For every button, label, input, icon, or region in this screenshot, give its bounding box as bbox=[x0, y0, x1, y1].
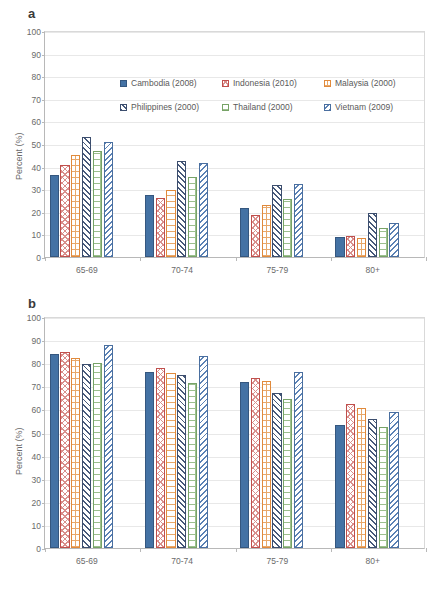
legend-swatch-diagonal-navy-icon bbox=[120, 104, 127, 111]
legend-swatch-brick-green-icon bbox=[222, 104, 229, 111]
bar-65-69-vietnam[interactable] bbox=[104, 142, 113, 257]
y-axis-tick-mark bbox=[42, 77, 45, 78]
y-axis-tick-label: 60 bbox=[32, 118, 41, 127]
legend-label: Thailand (2000) bbox=[233, 102, 293, 112]
legend-label: Indonesia (2010) bbox=[233, 78, 297, 88]
bar-80+-malaysia[interactable] bbox=[357, 408, 366, 548]
bar-80+-indonesia[interactable] bbox=[346, 236, 355, 257]
bar-80+-cambodia[interactable] bbox=[335, 425, 344, 548]
bar-70-74-philippines[interactable] bbox=[177, 161, 186, 257]
x-axis-label-70-74: 70-74 bbox=[171, 265, 193, 275]
bar-75-79-philippines[interactable] bbox=[272, 185, 281, 257]
y-axis-tick-label: 10 bbox=[32, 231, 41, 240]
y-axis-tick-mark bbox=[42, 122, 45, 123]
legend-label: Malaysia (2000) bbox=[335, 78, 395, 88]
plot-area-b: 010203040506070809010065-6970-7475-7980+ bbox=[44, 317, 425, 549]
bar-80+-malaysia[interactable] bbox=[357, 238, 366, 257]
x-axis-label-80+: 80+ bbox=[365, 556, 379, 566]
bar-70-74-malaysia[interactable] bbox=[166, 373, 175, 548]
bar-65-69-cambodia[interactable] bbox=[50, 354, 59, 549]
y-axis-tick-label: 70 bbox=[32, 96, 41, 105]
bar-70-74-cambodia[interactable] bbox=[145, 195, 154, 257]
figure-bar-charts: a Percent (%) 010203040506070809010065-6… bbox=[0, 0, 446, 590]
bar-65-69-indonesia[interactable] bbox=[60, 352, 69, 548]
y-axis-tick-label: 10 bbox=[32, 522, 41, 531]
bar-80+-indonesia[interactable] bbox=[346, 404, 355, 548]
bar-70-74-thailand[interactable] bbox=[188, 177, 197, 257]
y-axis-tick-mark bbox=[42, 190, 45, 191]
legend-entry-indonesia[interactable]: Indonesia (2010) bbox=[222, 78, 324, 88]
bar-75-79-malaysia[interactable] bbox=[262, 205, 271, 257]
x-axis-tick-mark bbox=[236, 548, 237, 552]
y-axis-tick-label: 80 bbox=[32, 360, 41, 369]
legend-entry-philippines[interactable]: Philippines (2000) bbox=[120, 102, 222, 112]
bar-75-79-indonesia[interactable] bbox=[251, 378, 260, 548]
y-axis-tick-label: 80 bbox=[32, 73, 41, 82]
y-axis-tick-mark bbox=[42, 168, 45, 169]
y-axis-tick-label: 30 bbox=[32, 186, 41, 195]
legend-entry-vietnam[interactable]: Vietnam (2009) bbox=[324, 102, 424, 112]
bar-80+-thailand[interactable] bbox=[379, 228, 388, 257]
bar-75-79-vietnam[interactable] bbox=[294, 184, 303, 257]
y-axis-tick-label: 20 bbox=[32, 209, 41, 218]
y-axis-tick-mark bbox=[42, 434, 45, 435]
bar-65-69-malaysia[interactable] bbox=[71, 358, 80, 548]
bar-70-74-malaysia[interactable] bbox=[166, 190, 175, 257]
bar-65-69-malaysia[interactable] bbox=[71, 155, 80, 257]
bar-80+-vietnam[interactable] bbox=[389, 412, 398, 548]
y-axis-tick-label: 40 bbox=[32, 452, 41, 461]
legend-swatch-solid-blue-icon bbox=[120, 80, 127, 87]
y-axis-tick-mark bbox=[42, 410, 45, 411]
bar-75-79-thailand[interactable] bbox=[283, 399, 292, 548]
chart-panel-b: b Percent (%) 010203040506070809010065-6… bbox=[0, 290, 446, 590]
y-axis-tick-label: 40 bbox=[32, 163, 41, 172]
bar-65-69-thailand[interactable] bbox=[93, 151, 102, 257]
y-axis-tick-label: 50 bbox=[32, 429, 41, 438]
bar-75-79-thailand[interactable] bbox=[283, 199, 292, 257]
legend-swatch-ladder-orange-icon bbox=[324, 80, 331, 87]
y-axis-tick-mark bbox=[42, 364, 45, 365]
bar-80+-philippines[interactable] bbox=[368, 419, 377, 548]
y-axis-tick-label: 0 bbox=[36, 254, 41, 263]
legend-swatch-cross-hatch-red-icon bbox=[222, 80, 229, 87]
bar-65-69-cambodia[interactable] bbox=[50, 175, 59, 257]
bar-80+-vietnam[interactable] bbox=[389, 223, 398, 257]
bar-80+-philippines[interactable] bbox=[368, 213, 377, 257]
bar-75-79-cambodia[interactable] bbox=[240, 208, 249, 257]
bar-70-74-philippines[interactable] bbox=[177, 375, 186, 548]
x-axis-label-65-69: 65-69 bbox=[76, 265, 98, 275]
bar-70-74-cambodia[interactable] bbox=[145, 372, 154, 548]
bar-70-74-vietnam[interactable] bbox=[199, 163, 208, 257]
y-axis-tick-label: 90 bbox=[32, 337, 41, 346]
y-axis-tick-mark bbox=[42, 503, 45, 504]
legend-label: Philippines (2000) bbox=[131, 102, 199, 112]
bar-75-79-philippines[interactable] bbox=[272, 393, 281, 548]
bar-65-69-indonesia[interactable] bbox=[60, 165, 69, 257]
y-axis-tick-mark bbox=[42, 457, 45, 458]
gridline bbox=[45, 55, 424, 56]
bar-75-79-cambodia[interactable] bbox=[240, 382, 249, 548]
bar-70-74-vietnam[interactable] bbox=[199, 356, 208, 548]
bar-65-69-philippines[interactable] bbox=[82, 364, 91, 548]
bar-65-69-philippines[interactable] bbox=[82, 137, 91, 257]
bar-75-79-vietnam[interactable] bbox=[294, 372, 303, 548]
y-axis-tick-label: 90 bbox=[32, 50, 41, 59]
x-axis-tick-mark bbox=[331, 548, 332, 552]
legend-entry-malaysia[interactable]: Malaysia (2000) bbox=[324, 78, 424, 88]
legend-entry-cambodia[interactable]: Cambodia (2008) bbox=[120, 78, 222, 88]
plot-area-a: 010203040506070809010065-6970-7475-7980+ bbox=[44, 31, 425, 258]
bar-70-74-indonesia[interactable] bbox=[156, 198, 165, 257]
bar-75-79-indonesia[interactable] bbox=[251, 215, 260, 257]
bar-80+-thailand[interactable] bbox=[379, 427, 388, 548]
legend-entry-thailand[interactable]: Thailand (2000) bbox=[222, 102, 324, 112]
y-axis-tick-mark bbox=[42, 55, 45, 56]
bar-75-79-malaysia[interactable] bbox=[262, 381, 271, 548]
bar-65-69-vietnam[interactable] bbox=[104, 345, 113, 548]
bar-65-69-thailand[interactable] bbox=[93, 363, 102, 548]
x-axis-label-70-74: 70-74 bbox=[171, 556, 193, 566]
panel-label-a: a bbox=[28, 6, 35, 21]
bar-80+-cambodia[interactable] bbox=[335, 237, 344, 257]
bar-70-74-thailand[interactable] bbox=[188, 383, 197, 548]
bar-70-74-indonesia[interactable] bbox=[156, 368, 165, 548]
gridline bbox=[45, 32, 424, 33]
